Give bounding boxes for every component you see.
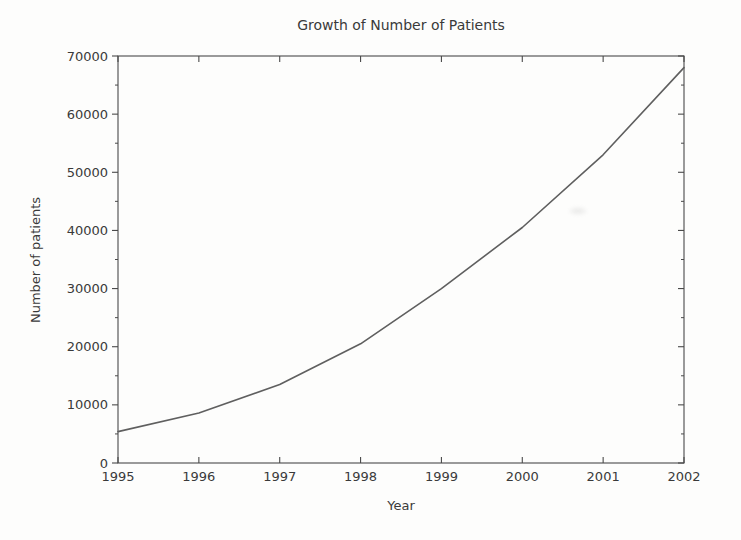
chart-figure: Growth of Number of Patients Number of p… <box>0 0 741 540</box>
y-tick-label: 30000 <box>67 281 108 296</box>
y-axis-major-ticks <box>112 56 684 463</box>
x-tick-label: 1996 <box>182 469 215 484</box>
x-tick-label: 1997 <box>263 469 296 484</box>
x-tick-label: 2001 <box>587 469 620 484</box>
x-tick-label: 1999 <box>425 469 458 484</box>
y-tick-label: 60000 <box>67 107 108 122</box>
x-tick-label: 1998 <box>344 469 377 484</box>
y-axis-label: Number of patients <box>28 197 43 323</box>
y-tick-label: 70000 <box>67 49 108 64</box>
patients-data-line <box>118 68 684 432</box>
x-tick-labels: 19951996199719981999200020012002 <box>101 469 700 484</box>
chart-title: Growth of Number of Patients <box>297 17 505 33</box>
line-chart: Growth of Number of Patients Number of p… <box>0 0 741 540</box>
y-tick-label: 40000 <box>67 223 108 238</box>
x-axis-ticks <box>118 56 684 463</box>
y-tick-label: 10000 <box>67 397 108 412</box>
x-tick-label: 2002 <box>667 469 700 484</box>
plot-frame <box>118 56 684 463</box>
y-axis-minor-ticks <box>115 85 684 434</box>
x-tick-label: 1995 <box>101 469 134 484</box>
y-tick-label: 50000 <box>67 165 108 180</box>
y-tick-label: 20000 <box>67 339 108 354</box>
x-axis-label: Year <box>386 498 415 513</box>
scan-smudge-artifact <box>570 208 586 214</box>
y-tick-labels: 010000200003000040000500006000070000 <box>67 49 108 471</box>
x-tick-label: 2000 <box>506 469 539 484</box>
